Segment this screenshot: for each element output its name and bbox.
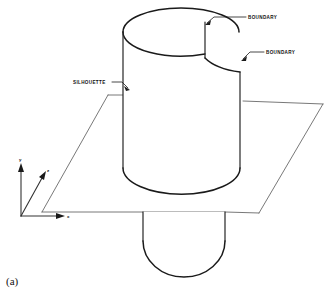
boundary-lower-leader [241,52,264,61]
boundary-lower-label: BOUNDARY [266,50,295,55]
figure-container: BOUNDARY BOUNDARY SILHOUETTE y z x (a) [0,0,334,298]
x-axis-label: x [67,214,70,219]
silhouette-label: SILHOUETTE [73,80,106,85]
cylinder-lower-face [143,212,225,278]
x-axis-arrowhead [56,213,65,219]
y-axis-arrowhead [18,163,24,172]
cylinder-body-face [123,22,239,194]
z-axis-label: z [47,168,50,173]
cylinder-plane-diagram: BOUNDARY BOUNDARY SILHOUETTE y z x (a) [0,0,334,298]
boundary-top-arrowhead [205,20,211,25]
z-axis-arrowhead [39,171,46,180]
cylinder-lower-section [143,212,225,278]
z-axis-line [21,178,42,216]
figure-caption: (a) [6,275,19,288]
boundary-lower-arrowhead [241,56,247,61]
cylinder-upper-section [123,8,240,194]
boundary-top-leader [205,17,246,25]
boundary-top-label: BOUNDARY [248,15,277,20]
y-axis-label: y [19,157,22,162]
